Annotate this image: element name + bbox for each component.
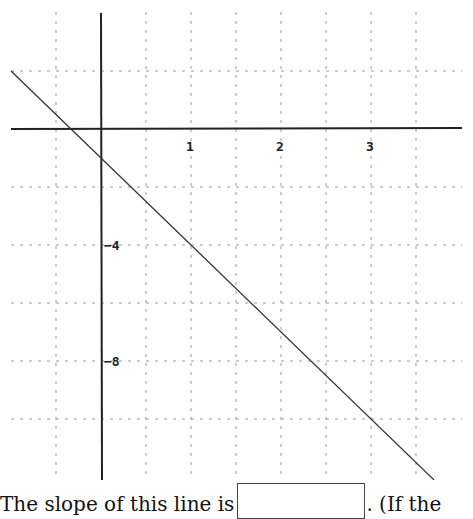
grid (11, 12, 462, 478)
x-tick-label: 1 (186, 139, 194, 154)
question-prefix: The slope of this line is (0, 491, 234, 519)
y-axis (101, 13, 102, 480)
line-graph: 123−4−8 (0, 0, 473, 480)
x-tick-label: 2 (276, 139, 284, 154)
question-suffix: . (If the (366, 491, 441, 519)
y-tick-label: −8 (104, 354, 120, 369)
tick-labels: 123−4−8 (104, 139, 374, 369)
question-row: The slope of this line is . (If the (0, 481, 441, 519)
y-tick-label: −4 (104, 238, 120, 253)
slope-answer-input[interactable] (237, 483, 365, 519)
x-axis (11, 128, 462, 129)
x-tick-label: 3 (366, 139, 374, 154)
